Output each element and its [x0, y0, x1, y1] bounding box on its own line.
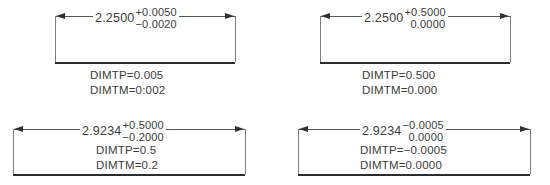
upper-tolerance: +0.5000	[404, 7, 445, 19]
extension-line-left	[320, 16, 321, 62]
nominal-value: 2.9234	[362, 125, 401, 138]
extension-line-right	[510, 16, 511, 62]
dim-variable-caption: DIMTP=−0.0005 DIMTM=0.0000	[360, 143, 447, 173]
extension-line-right	[235, 16, 236, 62]
dimension-text: 2.9234 −0.0005 0.0000	[360, 120, 446, 143]
arrowhead-right-icon	[520, 126, 529, 132]
object-baseline	[320, 62, 510, 64]
object-baseline	[55, 62, 235, 64]
nominal-value: 2.2500	[95, 12, 134, 25]
tolerance-stack: −0.0005 0.0000	[402, 120, 443, 143]
dimension-text: 2.2500 +0.0050 −0.0020	[93, 7, 179, 30]
dimtm-label: DIMTM=0.0000	[360, 158, 447, 173]
dimension-example-top-left: 2.2500 +0.0050 −0.0020 DIMTP=0.005 DIMTM…	[55, 16, 235, 62]
arrowhead-left-icon	[56, 13, 65, 19]
arrowhead-left-icon	[299, 126, 308, 132]
extension-line-left	[298, 129, 299, 174]
extension-line-right	[530, 129, 531, 174]
arrowhead-left-icon	[321, 13, 330, 19]
extension-line-right	[245, 129, 246, 174]
arrowhead-right-icon	[225, 13, 234, 19]
lower-tolerance: −0.2000	[122, 132, 163, 144]
dim-variable-caption: DIMTP=0.500 DIMTM=0.000	[362, 68, 437, 98]
extension-line-left	[13, 129, 14, 174]
upper-tolerance: +0.5000	[122, 120, 163, 132]
dimtm-label: DIMTM=0.2	[96, 158, 158, 173]
dimension-text: 2.2500 +0.5000 0.0000	[362, 7, 448, 30]
dimtp-label: DIMTP=0.005	[90, 68, 165, 83]
lower-tolerance: 0.0000	[402, 132, 443, 144]
dimtp-label: DIMTP=−0.0005	[360, 143, 447, 158]
upper-tolerance: −0.0005	[402, 120, 443, 132]
arrowhead-right-icon	[235, 126, 244, 132]
dimtp-label: DIMTP=0.500	[362, 68, 437, 83]
dimtp-label: DIMTP=0.5	[96, 143, 158, 158]
tolerance-stack: +0.5000 −0.2000	[122, 120, 163, 143]
dimension-text: 2.9234 +0.5000 −0.2000	[80, 120, 166, 143]
arrowhead-left-icon	[14, 126, 23, 132]
dimtm-label: DIMTM=0:002	[90, 83, 165, 98]
extension-line-left	[55, 16, 56, 62]
nominal-value: 2.9234	[82, 125, 121, 138]
lower-tolerance: 0.0000	[404, 19, 445, 31]
lower-tolerance: −0.0020	[135, 19, 176, 31]
dimension-example-bottom-left: 2.9234 +0.5000 −0.2000 DIMTP=0.5 DIMTM=0…	[13, 129, 245, 174]
tolerance-stack: +0.0050 −0.0020	[135, 7, 176, 30]
tolerance-stack: +0.5000 0.0000	[404, 7, 445, 30]
dimension-example-top-right: 2.2500 +0.5000 0.0000 DIMTP=0.500 DIMTM=…	[320, 16, 510, 62]
dim-variable-caption: DIMTP=0.005 DIMTM=0:002	[90, 68, 165, 98]
object-baseline	[298, 174, 530, 176]
dimtm-label: DIMTM=0.000	[362, 83, 437, 98]
nominal-value: 2.2500	[364, 12, 403, 25]
dimension-example-bottom-right: 2.9234 −0.0005 0.0000 DIMTP=−0.0005 DIMT…	[298, 129, 530, 174]
arrowhead-right-icon	[500, 13, 509, 19]
object-baseline	[13, 174, 245, 176]
upper-tolerance: +0.0050	[135, 7, 176, 19]
dim-variable-caption: DIMTP=0.5 DIMTM=0.2	[96, 143, 158, 173]
